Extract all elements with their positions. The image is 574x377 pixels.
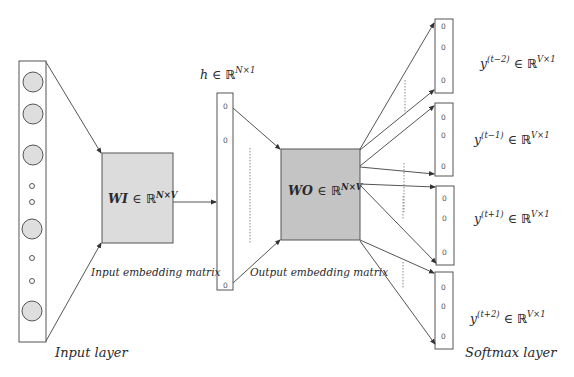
input-layer-caption: Input layer xyxy=(55,345,128,360)
output-node: 0 xyxy=(441,302,446,311)
hidden-layer-label: h ∈ ℝN×1 xyxy=(200,66,255,82)
output-label-t-minus-1: y(t−1) ∈ ℝV×1 xyxy=(474,131,550,147)
output-node: 0 xyxy=(442,194,447,203)
output-arrows xyxy=(360,23,436,344)
output-label-t-minus-2: y(t−2) ∈ ℝV×1 xyxy=(480,55,556,71)
output-node: 0 xyxy=(441,22,446,31)
wo-matrix-label: WO ∈ ℝN×V xyxy=(288,182,362,198)
input-embedding-caption: Input embedding matrix xyxy=(91,266,220,278)
output-node: 0 xyxy=(442,214,447,223)
hidden-node: 0 xyxy=(223,281,228,290)
hidden-node: 0 xyxy=(223,136,228,145)
skip-gram-diagram: 0 0 0 0 0 0 0 0 0 0 0 0 0 0 0 WI ∈ ℝN×V … xyxy=(0,0,574,377)
arrow-hidden-top xyxy=(233,108,280,149)
softmax-layer-caption: Softmax layer xyxy=(465,345,556,360)
output-node: 0 xyxy=(441,332,446,341)
hidden-layer-box xyxy=(217,93,233,290)
output-ellipsis xyxy=(403,80,405,288)
output-node: 0 xyxy=(441,162,446,171)
output-label-t-plus-1: y(t+1) ∈ ℝV×1 xyxy=(474,210,550,226)
output-node: 0 xyxy=(441,283,446,292)
hidden-node: 0 xyxy=(223,102,228,111)
output-node: 0 xyxy=(441,43,446,52)
wi-matrix-label: WI ∈ ℝN×V xyxy=(108,190,177,206)
arrow-input-top xyxy=(46,62,101,153)
input-layer xyxy=(19,61,46,342)
output-label-t-plus-2: y(t+2) ∈ ℝV×1 xyxy=(470,310,546,326)
output-node: 0 xyxy=(441,131,446,140)
output-node: 0 xyxy=(441,113,446,122)
output-node: 0 xyxy=(442,248,447,257)
output-embedding-caption: Output embedding matrix xyxy=(250,266,388,278)
output-node: 0 xyxy=(441,76,446,85)
arrow-input-bottom xyxy=(46,243,101,341)
